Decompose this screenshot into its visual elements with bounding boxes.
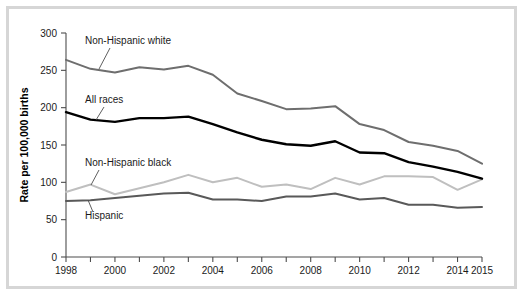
x-tick-labels: 1998200020022004200620082010201220142015 [55, 265, 494, 276]
line-chart: 050100150200250300 Rate per 100,000 birt… [0, 0, 523, 295]
series-line-non-hispanic-white [66, 60, 482, 164]
series-lines [66, 60, 482, 208]
y-tick-label: 0 [51, 252, 57, 263]
x-tick-marks [66, 257, 482, 262]
x-tick-label: 2008 [300, 265, 323, 276]
x-tick-label: 2014 [446, 265, 469, 276]
y-tick-label: 250 [40, 65, 57, 76]
y-tick-labels: 050100150200250300 [40, 28, 57, 263]
annotation-non-hispanic-white: Non-Hispanic white [85, 35, 172, 69]
x-tick-label: 2010 [349, 265, 372, 276]
series-label-non-hispanic-white: Non-Hispanic white [85, 35, 172, 46]
x-tick-label: 2004 [202, 265, 225, 276]
y-axis: 050100150200250300 Rate per 100,000 birt… [18, 28, 66, 263]
leader-line-non-hispanic-white [99, 48, 110, 69]
annotation-non-hispanic-black: Non-Hispanic black [85, 157, 172, 185]
x-tick-label: 2002 [153, 265, 176, 276]
x-tick-label: 2000 [104, 265, 127, 276]
y-tick-label: 200 [40, 102, 57, 113]
leader-line-non-hispanic-black [91, 170, 99, 185]
x-tick-label: 2006 [251, 265, 274, 276]
y-axis-title: Rate per 100,000 births [18, 87, 30, 202]
series-line-all-races [66, 112, 482, 178]
x-tick-label: 1998 [55, 265, 78, 276]
y-tick-label: 300 [40, 28, 57, 39]
series-line-non-hispanic-black [66, 175, 482, 194]
y-tick-label: 50 [46, 214, 58, 225]
y-tick-label: 150 [40, 140, 57, 151]
series-line-hispanic [66, 193, 482, 208]
x-tick-label: 2012 [397, 265, 420, 276]
annotation-hispanic: Hispanic [85, 200, 123, 221]
x-tick-label: 2015 [471, 265, 494, 276]
y-tick-label: 100 [40, 177, 57, 188]
chart-figure: 050100150200250300 Rate per 100,000 birt… [0, 0, 523, 295]
series-label-all-races: All races [85, 94, 123, 105]
x-axis: 1998200020022004200620082010201220142015 [55, 257, 494, 276]
y-tick-marks [61, 33, 66, 257]
series-label-hispanic: Hispanic [85, 210, 123, 221]
series-label-non-hispanic-black: Non-Hispanic black [85, 157, 172, 168]
leader-line-all-races [96, 107, 104, 120]
annotation-all-races: All races [85, 94, 123, 120]
